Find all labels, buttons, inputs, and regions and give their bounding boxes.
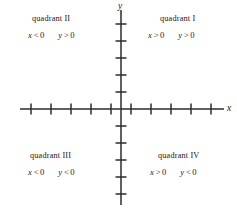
quadrant-2-title: quadrant II — [32, 15, 75, 23]
quadrant-4-y-condition: y<0 — [180, 168, 196, 177]
quadrant-3-title: quadrant III — [30, 152, 75, 160]
x-operator: > — [152, 30, 160, 40]
quadrant-4-title: quadrant IV — [158, 152, 200, 160]
x-number: 0 — [160, 30, 164, 40]
quadrant-3-block: quadrant III x<0 y<0 — [28, 152, 75, 177]
x-operator: > — [154, 167, 162, 177]
x-number: 0 — [40, 167, 44, 177]
x-number: 0 — [162, 167, 166, 177]
quadrant-1-y-condition: y>0 — [178, 31, 194, 40]
quadrant-3-conditions: x<0 y<0 — [28, 168, 75, 177]
coordinate-plane-figure: x y quadrant II x<0 y>0 quadrant I x>0 y… — [0, 0, 237, 209]
quadrant-1-conditions: x>0 y>0 — [148, 31, 195, 40]
y-number: 0 — [192, 167, 196, 177]
quadrant-2-conditions: x<0 y>0 — [28, 31, 75, 40]
quadrant-3-y-condition: y<0 — [58, 168, 74, 177]
quadrant-1-x-condition: x>0 — [148, 31, 164, 40]
x-operator: < — [32, 167, 40, 177]
x-axis-label: x — [227, 104, 231, 114]
quadrant-4-block: quadrant IV x>0 y<0 — [152, 152, 200, 177]
x-operator: < — [32, 30, 40, 40]
quadrant-2-y-condition: y>0 — [58, 31, 74, 40]
quadrant-4-conditions: x>0 y<0 — [150, 168, 200, 177]
quadrant-1-title: quadrant I — [160, 15, 195, 23]
quadrant-2-block: quadrant II x<0 y>0 — [28, 15, 75, 40]
y-number: 0 — [190, 30, 194, 40]
y-axis-label: y — [118, 2, 122, 12]
y-number: 0 — [70, 30, 74, 40]
quadrant-4-x-condition: x>0 — [150, 168, 166, 177]
quadrant-3-x-condition: x<0 — [28, 168, 44, 177]
y-number: 0 — [70, 167, 74, 177]
quadrant-2-x-condition: x<0 — [28, 31, 44, 40]
x-number: 0 — [40, 30, 44, 40]
quadrant-1-block: quadrant I x>0 y>0 — [152, 15, 195, 40]
